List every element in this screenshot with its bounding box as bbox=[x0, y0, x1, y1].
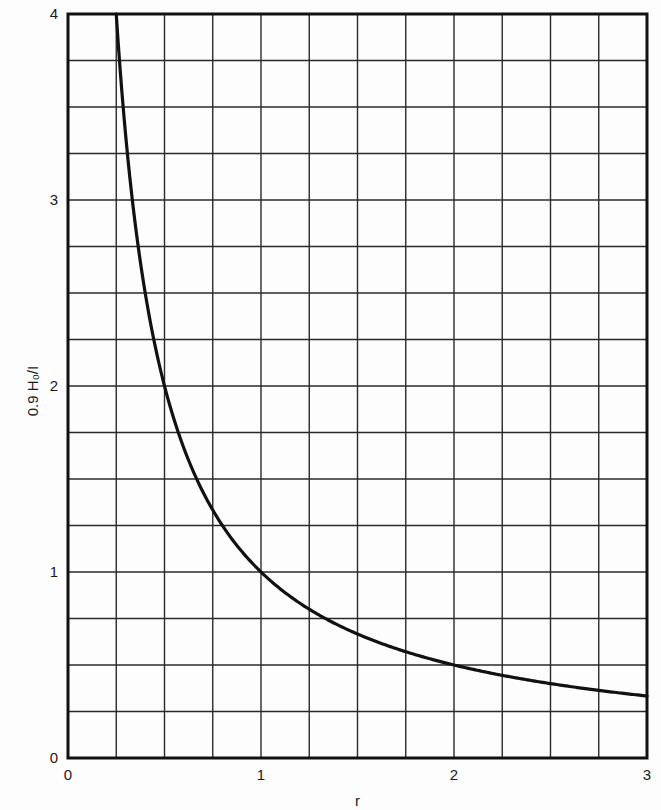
x-axis-label: r bbox=[355, 792, 360, 809]
y-tick-label: 3 bbox=[50, 191, 58, 208]
y-tick-label: 1 bbox=[50, 563, 58, 580]
x-tick-label: 0 bbox=[64, 766, 72, 783]
x-tick-label: 2 bbox=[450, 766, 458, 783]
chart-canvas: 0123 01234 r 0.9 H₀/I bbox=[0, 0, 661, 810]
x-tick-label: 1 bbox=[257, 766, 265, 783]
x-tick-labels: 0123 bbox=[64, 766, 651, 783]
data-curve bbox=[116, 14, 647, 696]
y-axis-label: 0.9 H₀/I bbox=[24, 366, 41, 416]
y-tick-labels: 01234 bbox=[50, 5, 58, 766]
y-tick-label: 2 bbox=[50, 377, 58, 394]
grid-lines bbox=[68, 14, 647, 758]
y-tick-label: 4 bbox=[50, 5, 58, 22]
x-tick-label: 3 bbox=[643, 766, 651, 783]
y-tick-label: 0 bbox=[50, 749, 58, 766]
